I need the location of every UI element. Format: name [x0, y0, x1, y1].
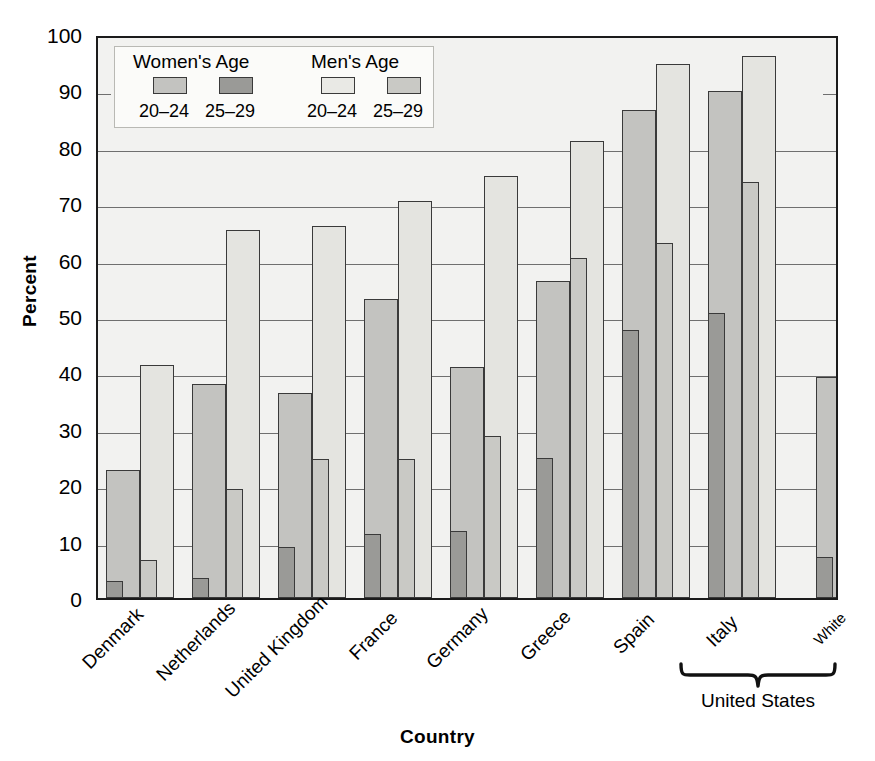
bar-italy-women-25-29	[708, 313, 725, 598]
plot-area: Women's Age Men's Age 20–24 25–29 20–24 …	[96, 36, 838, 600]
bar-netherlands-women-25-29	[192, 578, 209, 598]
united-states-group-label: United States	[678, 690, 838, 712]
bar-germany-women-25-29	[450, 531, 467, 598]
legend-title-women: Women's Age	[133, 51, 249, 73]
bar-denmark-women-25-29	[106, 581, 123, 598]
y-tick-label: 80	[36, 138, 82, 159]
y-tick-stub	[823, 94, 836, 95]
x-tick-label: United Kingdom	[221, 591, 332, 702]
legend-label-men-20-24: 20–24	[307, 101, 357, 122]
x-tick-label: France	[345, 607, 402, 664]
x-tick-label: Denmark	[78, 603, 148, 673]
y-tick-label: 50	[36, 307, 82, 328]
y-tick-label: 40	[36, 363, 82, 384]
x-axis-title: Country	[0, 726, 875, 748]
legend-title-men: Men's Age	[311, 51, 399, 73]
y-tick-stub	[98, 94, 111, 95]
bar-spain-men-25-29	[656, 243, 673, 598]
bar-netherlands-women-20-24	[192, 384, 226, 598]
legend-swatch-women-25-29	[219, 77, 253, 94]
bar-france-men-25-29	[398, 459, 415, 598]
x-tick-label: Italy	[702, 612, 742, 652]
y-tick-label: 90	[36, 81, 82, 102]
chart-legend: Women's Age Men's Age 20–24 25–29 20–24 …	[114, 46, 434, 128]
bar-netherlands-men-25-29	[226, 489, 243, 598]
y-axis-title: Percent	[19, 231, 41, 351]
x-tick-label: White	[810, 609, 849, 648]
legend-swatch-women-20-24	[153, 77, 187, 94]
legend-label-women-25-29: 25–29	[205, 101, 255, 122]
bar-chart-figure: Percent 0102030405060708090100 Women's A…	[0, 0, 875, 761]
bar-greece-women-25-29	[536, 458, 553, 598]
bar-italy-men-25-29	[742, 182, 759, 598]
y-tick-label: 30	[36, 420, 82, 441]
bar-germany-men-25-29	[484, 436, 501, 598]
bar-denmark-women-20-24	[106, 470, 140, 598]
x-tick-label: Netherlands	[152, 598, 240, 686]
legend-label-men-25-29: 25–29	[373, 101, 423, 122]
united-states-brace-icon	[678, 662, 838, 688]
bar-united-kingdom-women-25-29	[278, 547, 295, 598]
y-tick-label: 20	[36, 476, 82, 497]
bar-france-women-25-29	[364, 534, 381, 598]
legend-label-women-20-24: 20–24	[139, 101, 189, 122]
y-tick-label: 60	[36, 251, 82, 272]
y-tick-label: 10	[36, 533, 82, 554]
bar-denmark-men-25-29	[140, 560, 157, 598]
bar-greece-men-25-29	[570, 258, 587, 598]
x-tick-label: Germany	[422, 603, 493, 674]
y-tick-label: 70	[36, 194, 82, 215]
bar-white-women-25-29	[816, 557, 833, 598]
legend-swatch-men-20-24	[321, 77, 355, 94]
bar-spain-women-25-29	[622, 330, 639, 598]
bar-united-kingdom-men-25-29	[312, 459, 329, 598]
y-tick-label: 100	[36, 25, 82, 46]
x-tick-label: Greece	[516, 606, 576, 666]
y-tick-label: 0	[36, 589, 82, 610]
x-tick-label: Spain	[609, 609, 659, 659]
legend-swatch-men-25-29	[387, 77, 421, 94]
